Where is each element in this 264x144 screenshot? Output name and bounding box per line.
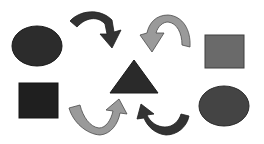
diagram-canvas <box>0 0 264 144</box>
curved-arrow-icon-top-left <box>70 12 121 48</box>
circle-bottom-right <box>199 86 249 126</box>
square-top-right <box>205 35 244 68</box>
square-bottom-left <box>19 83 58 118</box>
diagram-svg <box>0 0 264 144</box>
curved-arrow-icon-bottom-left <box>69 99 127 135</box>
triangle-center <box>110 60 158 93</box>
circle-top-left <box>12 26 62 66</box>
curved-arrow-icon-top-right <box>140 15 190 52</box>
curved-arrow-icon-bottom-right <box>137 104 189 135</box>
